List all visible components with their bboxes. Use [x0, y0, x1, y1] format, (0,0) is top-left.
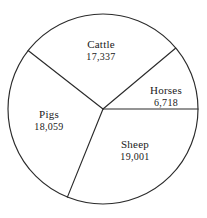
pie-slice-value-sheep: 19,001	[98, 151, 172, 163]
pie-slice-label-sheep: Sheep 19,001	[98, 138, 172, 163]
pie-slice-name-cattle: Cattle	[61, 38, 141, 51]
pie-slice-label-horses: Horses 6,718	[133, 84, 199, 109]
pie-slice-name-pigs: Pigs	[14, 108, 84, 121]
pie-slice-name-horses: Horses	[133, 84, 199, 97]
pie-slice-label-pigs: Pigs 18,059	[14, 108, 84, 133]
pie-slice-value-horses: 6,718	[133, 97, 199, 109]
pie-slice-value-pigs: 18,059	[14, 121, 84, 133]
pie-chart: Cattle 17,337 Horses 6,718 Sheep 19,001 …	[0, 0, 207, 218]
pie-slice-label-cattle: Cattle 17,337	[61, 38, 141, 63]
pie-slice-value-cattle: 17,337	[61, 51, 141, 63]
pie-slice-name-sheep: Sheep	[98, 138, 172, 151]
